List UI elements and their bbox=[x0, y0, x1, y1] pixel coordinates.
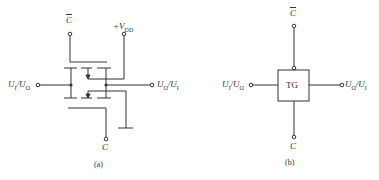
terminal-output-a bbox=[150, 83, 154, 87]
junction-dot-right bbox=[104, 83, 107, 86]
t8: I bbox=[177, 85, 179, 91]
t7: /U bbox=[168, 79, 177, 89]
t16: I bbox=[365, 85, 367, 91]
figure-a-wiring bbox=[36, 32, 154, 141]
terminal-c-bar-a bbox=[68, 32, 72, 36]
label-c-b: C bbox=[290, 142, 296, 151]
terminal-output-b bbox=[340, 83, 344, 87]
inversion-bubble bbox=[292, 66, 296, 70]
terminal-c-a bbox=[104, 137, 108, 141]
t15: /U bbox=[356, 79, 365, 89]
label-output-b: UO/UI bbox=[345, 80, 367, 91]
label-vdd-sub: DD bbox=[125, 27, 134, 33]
t11: /U bbox=[231, 79, 240, 89]
terminal-input-a bbox=[36, 83, 40, 87]
label-output-a: UO/UI bbox=[157, 80, 179, 91]
label-c-bar-b: C bbox=[290, 9, 296, 18]
caption-b: (b) bbox=[285, 158, 294, 167]
label-c-a: C bbox=[102, 143, 108, 152]
terminal-c-b bbox=[292, 135, 296, 139]
junction-dot-left bbox=[69, 83, 72, 86]
tg-label: TG bbox=[286, 80, 298, 90]
t3: /U bbox=[17, 79, 26, 89]
terminal-c-bar-b bbox=[292, 24, 296, 28]
label-input-a: UI/UO bbox=[8, 80, 30, 91]
circuit-diagram bbox=[0, 0, 379, 180]
label-vdd-prefix: +V bbox=[113, 21, 125, 31]
t12: O bbox=[240, 85, 244, 91]
label-c-bar-a: C bbox=[66, 16, 72, 25]
t4: O bbox=[26, 85, 30, 91]
label-input-b: UI/UO bbox=[222, 80, 244, 91]
terminal-input-b bbox=[249, 83, 253, 87]
caption-a: (a) bbox=[94, 160, 103, 169]
label-vdd: +VDD bbox=[113, 22, 133, 33]
